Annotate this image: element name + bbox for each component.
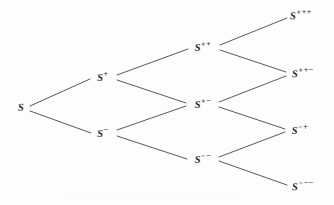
binomial-tree-figure: SS+S−S++S+−S−−S+++S++−S−+S−−− (0, 0, 334, 205)
tree-edge-sm-to-spm (117, 106, 186, 130)
tree-node-smp: S−+ (291, 123, 308, 136)
node-superscript: − (103, 125, 108, 134)
tree-node-smmm: S−−− (292, 179, 314, 192)
tree-node-s: S (18, 103, 24, 114)
tree-node-sp: S+ (97, 70, 109, 83)
tree-node-spp: S++ (194, 40, 211, 53)
node-superscript: ++ (201, 39, 212, 48)
tree-node-sppm: S++− (292, 66, 314, 79)
tree-edge-spm-to-sppm (219, 76, 286, 102)
tree-edge-spp-to-sppp (220, 18, 287, 45)
node-superscript: −+ (298, 122, 309, 131)
tree-edge-smm-to-smmm (219, 161, 287, 185)
tree-node-sm: S− (97, 126, 109, 139)
tree-edge-spp-to-sppm (220, 50, 286, 72)
tree-node-spm: S+− (194, 97, 211, 110)
node-superscript: + (103, 69, 108, 78)
node-superscript: ++− (298, 65, 314, 74)
tree-edges-layer (0, 0, 334, 205)
tree-edge-s-to-sp (30, 79, 90, 106)
tree-edge-spm-to-smp (219, 107, 285, 129)
node-superscript: +++ (296, 7, 312, 16)
tree-edge-smm-to-smp (219, 132, 285, 157)
node-base-symbol: S (18, 102, 24, 113)
node-superscript: −− (201, 151, 212, 160)
tree-node-smm: S−− (194, 152, 211, 165)
node-superscript: −−− (298, 178, 314, 187)
tree-edge-sp-to-spm (117, 80, 186, 103)
tree-edge-s-to-sm (30, 111, 91, 133)
tree-edge-sm-to-smm (117, 136, 187, 159)
node-superscript: +− (201, 96, 212, 105)
tree-edge-sp-to-spp (117, 49, 188, 75)
tree-node-sppp: S+++ (290, 8, 312, 21)
